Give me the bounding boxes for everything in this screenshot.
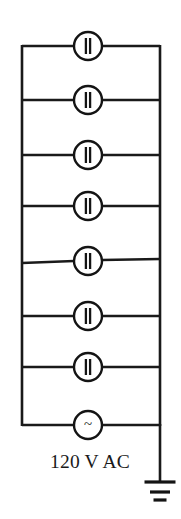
branch-wire-right-5 bbox=[102, 259, 160, 260]
circuit-diagram: ~ 120 V AC bbox=[0, 0, 181, 519]
capacitor-branch-1 bbox=[22, 32, 160, 60]
earth-ground-icon bbox=[145, 424, 176, 500]
capacitor-branch-6 bbox=[22, 302, 160, 330]
capacitor-icon-2-body bbox=[74, 86, 102, 114]
capacitor-branch-2 bbox=[22, 86, 160, 114]
branch-wire-left-5 bbox=[22, 261, 74, 263]
ac-source-branch: ~ bbox=[22, 411, 160, 439]
capacitor-branch-5 bbox=[22, 247, 160, 275]
capacitor-icon-5-body bbox=[74, 247, 102, 275]
ac-source-icon-glyph: ~ bbox=[84, 416, 92, 432]
capacitor-branch-3 bbox=[22, 141, 160, 169]
source-voltage-label: 120 V AC bbox=[50, 451, 130, 472]
capacitor-icon-6-body bbox=[74, 302, 102, 330]
capacitor-branch-4 bbox=[22, 192, 160, 220]
circuit-svg-canvas: ~ 120 V AC bbox=[0, 0, 181, 519]
capacitor-icon-7-body bbox=[74, 353, 102, 381]
capacitor-branch-7 bbox=[22, 353, 160, 381]
capacitor-icon-1-body bbox=[74, 32, 102, 60]
capacitor-icon-4-body bbox=[74, 192, 102, 220]
capacitor-icon-3-body bbox=[74, 141, 102, 169]
